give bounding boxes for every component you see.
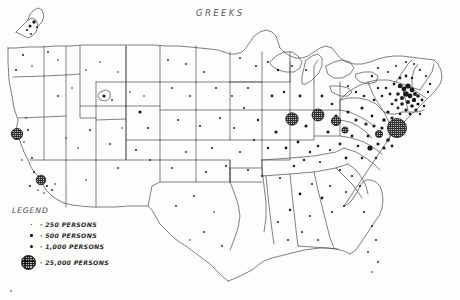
legend-label-1000: 1,000 PERSONS xyxy=(40,243,104,250)
center-chicago xyxy=(286,113,298,125)
legend-label-25000: 25,000 PERSONS xyxy=(40,259,109,266)
center-cleveland xyxy=(331,116,340,125)
center-san-francisco xyxy=(11,128,22,139)
dot-medium-icon xyxy=(23,245,40,249)
major-center-symbols xyxy=(11,109,406,185)
legend-item-25000: 25,000 PERSONS xyxy=(17,254,124,271)
legend-item-250: 250 PERSONS xyxy=(23,219,124,230)
legend-label-500: 500 PERSONS xyxy=(40,232,97,239)
legend-title: LEGEND xyxy=(12,206,124,215)
dot-small-icon xyxy=(23,234,40,236)
dot-tiny-icon xyxy=(23,224,40,226)
center-los-angeles xyxy=(36,175,46,185)
legend-item-1000: 1,000 PERSONS xyxy=(23,241,124,252)
center-detroit xyxy=(312,109,324,121)
legend-item-500: 500 PERSONS xyxy=(23,230,124,241)
center-pittsburgh xyxy=(342,127,348,133)
stray-speck xyxy=(10,290,12,292)
legend-label-250: 250 PERSONS xyxy=(40,221,97,228)
map-title: GREEKS xyxy=(196,8,245,18)
map-figure: GREEKS LEGEND 250 PERSONS 500 PERSONS 1,… xyxy=(0,0,460,300)
legend: LEGEND 250 PERSONS 500 PERSONS 1,000 PER… xyxy=(12,206,124,271)
circle-hatched-icon xyxy=(17,255,40,270)
center-philadelphia xyxy=(375,130,382,137)
center-new-york xyxy=(388,119,407,138)
